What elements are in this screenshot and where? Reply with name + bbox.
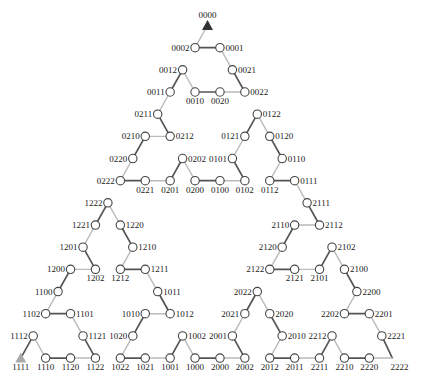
graph-node-circle bbox=[278, 332, 286, 340]
node-label: 2121 bbox=[286, 273, 304, 283]
graph-node-circle bbox=[91, 221, 99, 229]
node-label: 2222 bbox=[390, 362, 408, 372]
graph-node-circle bbox=[166, 176, 174, 184]
node-label: 0010 bbox=[186, 96, 205, 106]
graph-node-circle bbox=[129, 243, 137, 251]
graph-node-circle bbox=[104, 199, 112, 207]
graph-node-circle bbox=[216, 43, 224, 51]
node-label: 2201 bbox=[375, 309, 393, 319]
node-label: 0212 bbox=[176, 131, 194, 141]
node-label: 2110 bbox=[271, 220, 289, 230]
node-label: 0002 bbox=[172, 43, 190, 53]
graph-node-circle bbox=[315, 265, 323, 273]
node-label: 0200 bbox=[186, 185, 205, 195]
graph-node-circle bbox=[66, 310, 74, 318]
graph-node-circle bbox=[91, 354, 99, 362]
graph-node-circle bbox=[253, 110, 261, 118]
node-label: 2002 bbox=[236, 362, 254, 372]
graph-node-circle bbox=[154, 110, 162, 118]
node-label: 1112 bbox=[10, 331, 27, 341]
node-label: 2011 bbox=[286, 362, 304, 372]
graph-node-circle bbox=[216, 88, 224, 96]
graph-node-circle bbox=[116, 176, 124, 184]
node-label: 1001 bbox=[161, 362, 179, 372]
graph-node-circle bbox=[328, 243, 336, 251]
graph-node-circle bbox=[353, 287, 361, 295]
node-label: 1002 bbox=[188, 331, 206, 341]
graph-node-circle bbox=[79, 243, 87, 251]
graph-node-circle bbox=[216, 176, 224, 184]
node-label: 2210 bbox=[335, 362, 354, 372]
node-label: 0121 bbox=[221, 131, 239, 141]
graph-node-circle bbox=[266, 176, 274, 184]
graph-node-circle bbox=[315, 221, 323, 229]
graph-node-circle bbox=[191, 88, 199, 96]
node-label: 1121 bbox=[89, 331, 107, 341]
graph-node-circle bbox=[303, 199, 311, 207]
node-label: 0210 bbox=[122, 131, 141, 141]
graph-node-circle bbox=[116, 265, 124, 273]
node-label: 0102 bbox=[236, 185, 254, 195]
node-label: 1110 bbox=[37, 362, 55, 372]
graph-node-circle bbox=[340, 265, 348, 273]
graph-node-circle bbox=[241, 176, 249, 184]
graph-node-circle bbox=[228, 66, 236, 74]
node-label: 1212 bbox=[111, 273, 129, 283]
node-label: 2120 bbox=[259, 242, 278, 252]
node-label: 1220 bbox=[126, 220, 145, 230]
graph-node-circle bbox=[290, 354, 298, 362]
node-label: 2100 bbox=[350, 264, 369, 274]
node-label: 1202 bbox=[86, 273, 104, 283]
graph-node-circle bbox=[365, 354, 373, 362]
node-label: 2012 bbox=[261, 362, 279, 372]
node-label: 0120 bbox=[275, 131, 294, 141]
graph-node-circle bbox=[141, 354, 149, 362]
graph-node-circle bbox=[266, 132, 274, 140]
graph-node-circle bbox=[241, 310, 249, 318]
node-label: 1100 bbox=[35, 287, 53, 297]
graph-node-circle bbox=[178, 332, 186, 340]
node-label: 0220 bbox=[109, 154, 128, 164]
node-label: 1210 bbox=[138, 242, 157, 252]
graph-node-circle bbox=[141, 265, 149, 273]
node-label: 2000 bbox=[211, 362, 230, 372]
graph-node-circle bbox=[266, 310, 274, 318]
graph-node-circle bbox=[116, 221, 124, 229]
node-label: 2022 bbox=[234, 287, 252, 297]
graph-node-circle bbox=[253, 287, 261, 295]
node-label: 0111 bbox=[300, 176, 317, 186]
node-label: 2001 bbox=[209, 331, 227, 341]
graph-node-circle bbox=[141, 176, 149, 184]
node-label: 0101 bbox=[209, 154, 227, 164]
graph-node-circle bbox=[290, 265, 298, 273]
node-label: 1101 bbox=[76, 309, 94, 319]
node-label: 2102 bbox=[338, 242, 356, 252]
graph-node-circle bbox=[241, 88, 249, 96]
graph-node-circle bbox=[266, 354, 274, 362]
node-label: 2220 bbox=[360, 362, 379, 372]
graph-node-circle bbox=[278, 243, 286, 251]
node-label: 0110 bbox=[288, 154, 306, 164]
graph-node-circle bbox=[241, 354, 249, 362]
graph-node-circle bbox=[228, 154, 236, 162]
node-label: 0100 bbox=[211, 185, 230, 195]
graph-node-circle bbox=[154, 287, 162, 295]
node-label: 0001 bbox=[225, 43, 243, 53]
graph-node-circle bbox=[129, 154, 137, 162]
node-label: 2202 bbox=[321, 309, 339, 319]
node-label: 0221 bbox=[136, 185, 154, 195]
node-label: 0201 bbox=[161, 185, 179, 195]
node-label: 0211 bbox=[135, 109, 153, 119]
graph-node-circle bbox=[141, 132, 149, 140]
node-label: 2200 bbox=[362, 287, 381, 297]
graph-node-circle bbox=[41, 354, 49, 362]
graph-node-circle bbox=[191, 43, 199, 51]
graph-node-circle bbox=[178, 66, 186, 74]
graph-node-circle bbox=[166, 88, 174, 96]
graph-node-circle bbox=[129, 332, 137, 340]
node-label: 2212 bbox=[309, 331, 327, 341]
node-label: 2211 bbox=[311, 362, 329, 372]
node-label: 1102 bbox=[22, 309, 40, 319]
node-label: 0000 bbox=[199, 10, 218, 20]
graph-node-circle bbox=[340, 354, 348, 362]
